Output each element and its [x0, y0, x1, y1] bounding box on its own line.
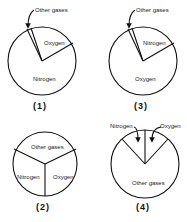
label-oxygen: Oxygen — [44, 40, 65, 46]
label-other-gases: Other gases — [35, 7, 68, 13]
pie-chart-2: Other gases Nitrogen Oxygen (2) — [13, 132, 77, 212]
caption-1: (1) — [33, 101, 47, 111]
caption-2: (2) — [36, 202, 50, 212]
label-other-gases: Other gases — [31, 144, 64, 150]
label-nitrogen: Nitrogen — [17, 174, 40, 180]
caption-3: (3) — [134, 101, 148, 111]
pie-charts-figure: Other gases Oxygen Nitrogen (1) Other ga… — [0, 0, 187, 222]
caption-4: (4) — [136, 202, 150, 212]
label-nitrogen: Nitrogen — [110, 123, 133, 129]
label-oxygen: Oxygen — [160, 123, 181, 129]
label-other-gases: Other gases — [132, 180, 165, 186]
label-other-gases: Other gases — [136, 7, 169, 13]
pointer-arrow-icon — [28, 10, 34, 26]
pie-chart-1: Other gases Oxygen Nitrogen (1) — [8, 7, 76, 111]
label-nitrogen: Nitrogen — [33, 76, 56, 82]
label-oxygen: Oxygen — [135, 76, 156, 82]
label-oxygen: Oxygen — [53, 174, 74, 180]
label-nitrogen: Nitrogen — [143, 40, 166, 46]
pie-chart-4: Nitrogen Oxygen Other gases (4) — [110, 123, 181, 212]
pie-chart-3: Other gases Nitrogen Oxygen (3) — [109, 7, 177, 111]
pointer-arrow-icon — [129, 10, 135, 26]
